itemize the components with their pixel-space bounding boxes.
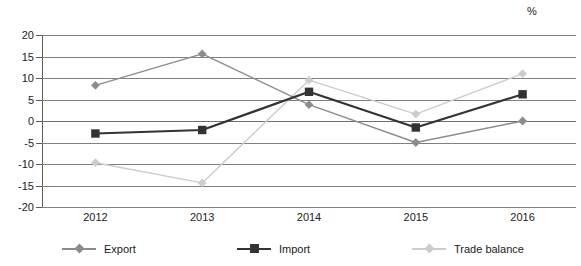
legend-item-import[interactable]: Import — [237, 238, 310, 260]
y-axis-tick — [36, 100, 42, 101]
y-axis-tick — [36, 35, 42, 36]
y-axis-tick — [36, 57, 42, 58]
y-axis-tick — [36, 143, 42, 144]
x-axis-tick-label: 2014 — [297, 211, 321, 223]
legend-label: Trade balance — [454, 243, 524, 255]
y-axis-tick — [36, 207, 42, 208]
y-axis-unit-label: % — [527, 5, 537, 17]
legend-label: Import — [279, 243, 310, 255]
x-axis-tick-label: 2016 — [510, 211, 534, 223]
y-axis-tick — [36, 164, 42, 165]
y-axis-tick-label: -20 — [4, 201, 34, 213]
gridline-20 — [42, 35, 576, 36]
gridline--20 — [42, 207, 576, 208]
x-axis-tick-labels: 20122013201420152016 — [42, 211, 576, 231]
y-axis-tick-label: -15 — [4, 180, 34, 192]
chart-legend: ExportImportTrade balance — [42, 238, 576, 260]
legend-diamond-icon — [62, 243, 96, 255]
y-axis-tick — [36, 121, 42, 122]
y-axis-tick-label: 10 — [4, 72, 34, 84]
legend-diamond-icon — [412, 243, 446, 255]
plot-area — [42, 35, 576, 207]
y-axis-tick-label: -10 — [4, 158, 34, 170]
y-axis-tick-label: -5 — [4, 137, 34, 149]
legend-label: Export — [104, 243, 136, 255]
x-axis-tick-label: 2015 — [404, 211, 428, 223]
x-axis-tick-label: 2013 — [190, 211, 214, 223]
gridline-5 — [42, 100, 576, 101]
gridline--10 — [42, 164, 576, 165]
gridline--5 — [42, 143, 576, 144]
y-axis-tick — [36, 186, 42, 187]
gridline--15 — [42, 186, 576, 187]
x-axis-tick-label: 2012 — [83, 211, 107, 223]
y-axis-tick-labels: 20151050-5-10-15-20 — [4, 35, 36, 207]
y-axis-tick-label: 0 — [4, 115, 34, 127]
legend-square-icon — [237, 243, 271, 255]
line-chart: % 20151050-5-10-15-20 201220132014201520… — [0, 0, 581, 266]
gridline-0 — [42, 121, 576, 122]
gridline-15 — [42, 57, 576, 58]
y-axis-tick-label: 15 — [4, 51, 34, 63]
y-axis-tick-label: 20 — [4, 29, 34, 41]
gridline-10 — [42, 78, 576, 79]
y-axis-tick-label: 5 — [4, 94, 34, 106]
y-axis-tick — [36, 78, 42, 79]
legend-item-export[interactable]: Export — [62, 238, 136, 260]
legend-item-trade-balance[interactable]: Trade balance — [412, 238, 524, 260]
